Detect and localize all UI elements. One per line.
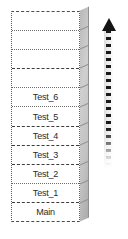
side-face-rib	[80, 103, 88, 108]
side-face-rib	[80, 161, 88, 166]
stack-frame-label: Test_6	[33, 92, 58, 102]
side-face-rib	[80, 122, 88, 127]
stack-frame-label: Test_1	[33, 188, 58, 198]
stack-frame-test6: Test_6	[12, 88, 79, 107]
side-face-rib	[80, 199, 88, 204]
stack-side-face-3d	[79, 7, 89, 222]
call-stack-diagram: Test_6 Test_5 Test_4 Test_3 Test_2 Test_…	[0, 0, 128, 239]
stack-frame-test5: Test_5	[12, 107, 79, 126]
stack-frame-empty-3	[12, 50, 79, 69]
call-stack-frames: Test_6 Test_5 Test_4 Test_3 Test_2 Test_…	[11, 11, 80, 222]
stack-frame-label: Test_4	[33, 131, 58, 141]
stack-frame-empty-2	[12, 31, 79, 50]
stack-frame-label: Test_3	[33, 150, 58, 160]
stack-frame-label: Test_2	[33, 169, 58, 179]
stack-frame-main: Main	[12, 203, 79, 221]
stack-frame-test3: Test_3	[12, 146, 79, 165]
stack-frame-empty-1	[12, 12, 79, 31]
arrow-head-up-icon	[102, 18, 116, 31]
stack-frame-label: Main	[36, 207, 55, 217]
stack-frame-empty-4	[12, 69, 79, 88]
side-face-rib	[80, 45, 88, 50]
side-face-rib	[80, 26, 88, 31]
stack-frame-test4: Test_4	[12, 127, 79, 146]
stack-frame-test2: Test_2	[12, 165, 79, 184]
stack-frame-test1: Test_1	[12, 184, 79, 203]
side-face-rib	[80, 141, 88, 146]
arrow-shaft-dashed	[106, 30, 111, 166]
side-face-rib	[80, 180, 88, 185]
side-face-rib	[80, 64, 88, 69]
stack-frame-label: Test_5	[33, 112, 58, 122]
growth-direction-arrow	[100, 18, 118, 166]
side-face-rib	[80, 84, 88, 89]
